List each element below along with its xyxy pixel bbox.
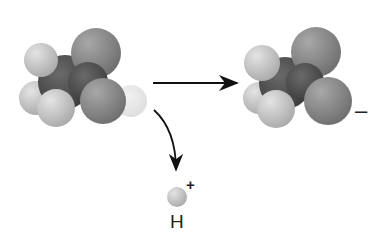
hydrogen-atom: [257, 90, 295, 128]
oxygen-atom: [304, 77, 352, 125]
reactant-molecule: [19, 28, 147, 127]
hydrogen-atom: [24, 43, 58, 77]
proton-charge: +: [186, 176, 195, 193]
reaction-diagram: [0, 0, 384, 241]
curved-arrow: [154, 110, 176, 170]
proton-sphere: [167, 187, 187, 207]
anion-charge: –: [355, 98, 367, 124]
product-molecule: [243, 27, 352, 128]
proton-symbol: H: [170, 211, 184, 233]
oxygen-atom: [80, 78, 126, 124]
hydrogen-atom: [37, 89, 75, 127]
hydrogen-atom: [244, 45, 280, 81]
